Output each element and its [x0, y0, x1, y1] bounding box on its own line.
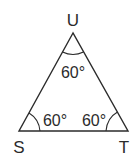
angle-arc-u	[63, 52, 84, 55]
angle-arc-t	[106, 112, 118, 131]
vertex-label-u: U	[67, 11, 79, 30]
vertex-label-s: S	[13, 138, 24, 157]
angle-label-t: 60°	[82, 112, 106, 129]
triangle-figure: U S T 60° 60° 60°	[0, 0, 138, 160]
angle-arc-s	[29, 113, 40, 131]
triangle-diagram: U S T 60° 60° 60°	[0, 0, 138, 160]
angle-label-u: 60°	[61, 64, 85, 81]
vertex-label-t: T	[119, 138, 129, 157]
angle-label-s: 60°	[43, 112, 67, 129]
